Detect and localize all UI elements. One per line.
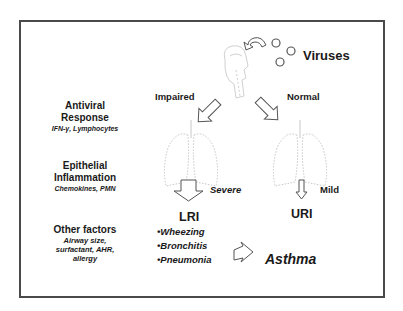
severity-mild-label: Mild (320, 184, 339, 195)
factor-antiviral-response: Antiviral Response IFN-γ, Lymphocytes (30, 100, 140, 133)
arrow-mild-icon (296, 180, 307, 199)
factor-title-line: Response (30, 112, 140, 124)
factor-other: Other factors Airway size, surfactant, A… (30, 224, 140, 263)
lri-symptom-item: •Wheezing (157, 225, 212, 239)
outcome-uri-title: URI (291, 207, 313, 221)
arrow-asthma-icon (234, 242, 253, 262)
factor-detail: Chemokines, PMN (30, 184, 140, 193)
lri-symptom-item: •Pneumonia (157, 253, 212, 267)
lri-symptom-item: •Bronchitis (157, 239, 212, 253)
curved-arrow-icon (244, 38, 266, 50)
head-airway-illustration (224, 46, 248, 98)
virus-particle-icon (276, 58, 284, 66)
branch-normal-label: Normal (287, 91, 320, 102)
arrow-severe-icon (174, 180, 203, 201)
factor-detail: allergy (30, 254, 140, 263)
factor-detail: surfactant, AHR, (30, 245, 140, 254)
arrow-normal-icon (252, 94, 285, 127)
factor-epithelial-inflammation: Epithelial Inflammation Chemokines, PMN (30, 160, 140, 193)
factor-title-line: Antiviral (30, 100, 140, 112)
factor-title-line: Inflammation (30, 172, 140, 184)
viruses-label: Viruses (303, 48, 350, 63)
factor-title-line: Other factors (30, 224, 140, 236)
severity-severe-label: Severe (210, 184, 241, 195)
branch-impaired-label: Impaired (155, 91, 195, 102)
lri-symptom-list: •Wheezing •Bronchitis •Pneumonia (157, 225, 212, 267)
outcome-lri-title: LRI (179, 210, 199, 224)
lungs-illustration-right (273, 120, 326, 186)
factor-detail: Airway size, (30, 236, 140, 245)
virus-particle-icon (287, 47, 295, 55)
factor-detail: IFN-γ, Lymphocytes (30, 124, 140, 133)
virus-particle-icon (272, 39, 280, 47)
lungs-illustration-left (164, 120, 217, 186)
arrow-impaired-icon (192, 96, 225, 129)
outcome-asthma-label: Asthma (265, 251, 316, 267)
factor-title-line: Epithelial (30, 160, 140, 172)
